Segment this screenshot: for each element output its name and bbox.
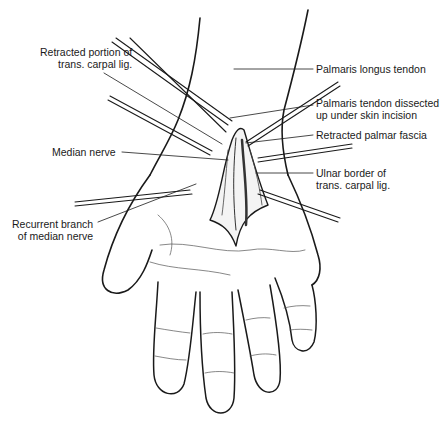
- finger-little: [275, 278, 316, 351]
- label-palmaris-dissected: Palmaris tendon dissected up under skin …: [316, 97, 439, 121]
- thumb-outline: [103, 175, 152, 293]
- label-retracted-portion: Retracted portion of trans. carpal lig.: [40, 46, 132, 70]
- label-palmaris-longus: Palmaris longus tendon: [316, 63, 426, 75]
- forearm-outline-left: [150, 18, 200, 175]
- label-ulnar-border: Ulnar border of trans. carpal lig.: [316, 167, 390, 191]
- retractor-lower-right: [258, 190, 340, 222]
- label-retracted-fascia: Retracted palmar fascia: [316, 129, 427, 141]
- retractor-mid-left: [108, 96, 212, 155]
- label-recurrent-branch: Recurrent branch of median nerve: [12, 218, 93, 242]
- finger-ring: [238, 285, 280, 392]
- retractor-mid-right: [258, 144, 352, 162]
- leader-median-nerve: [122, 152, 228, 160]
- palm-outline-ulnar: [288, 175, 320, 285]
- finger-middle: [200, 292, 235, 413]
- forearm-outline-right: [282, 10, 308, 175]
- leader-recurrent-branch: [98, 184, 196, 222]
- finger-index: [153, 282, 196, 394]
- leader-retracted-fascia: [246, 135, 313, 143]
- label-median-nerve: Median nerve: [52, 146, 116, 158]
